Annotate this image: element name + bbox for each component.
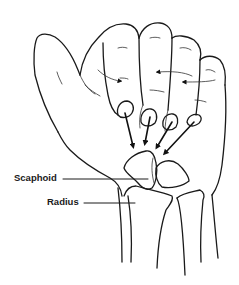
label-scaphoid: Scaphoid bbox=[14, 172, 57, 183]
scaphoid-force-arrows bbox=[125, 113, 194, 153]
forearm-bones bbox=[118, 186, 204, 275]
fist-outline bbox=[80, 23, 226, 258]
label-radius: Radius bbox=[47, 196, 79, 207]
ulna-bone bbox=[177, 190, 204, 262]
finger-force-arrows bbox=[98, 70, 215, 82]
lunate-bone bbox=[156, 161, 189, 188]
carpal-bones bbox=[124, 151, 189, 189]
hand-wrist-diagram bbox=[0, 0, 239, 285]
